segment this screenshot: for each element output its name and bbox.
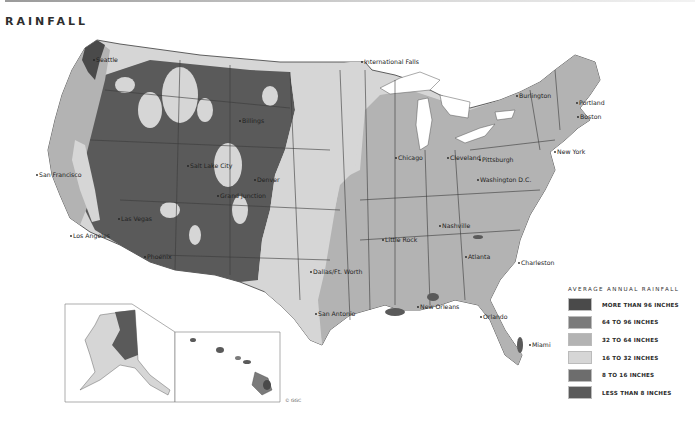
legend-label: 64 TO 96 INCHES [602,319,658,325]
city-marker: Portland [576,99,605,106]
city-label: Phoenix [147,253,172,260]
city-marker: Atlanta [465,253,490,260]
city-dot [465,256,467,258]
city-dot [417,306,419,308]
city-dot [217,195,219,197]
legend: AVERAGE ANNUAL RAINFALL MORE THAN 96 INC… [568,286,700,402]
city-dot [518,262,520,264]
city-marker: Orlando [480,313,508,320]
city-marker: Little Rock [382,236,418,243]
legend-item-less-than-8: LESS THAN 8 INCHES [568,384,700,402]
city-marker: San Antonio [315,310,356,317]
city-label: Burlington [519,92,551,100]
city-dot [310,271,312,273]
city-label: San Francisco [39,171,82,178]
legend-title: AVERAGE ANNUAL RAINFALL [568,286,700,292]
city-marker: Washington D.C. [477,176,531,184]
legend-swatch [568,298,592,311]
city-label: Dallas/Ft. Worth [313,268,363,275]
legend-label: LESS THAN 8 INCHES [602,390,671,396]
legend-item-8-to-16: 8 TO 16 INCHES [568,366,700,384]
city-dot [554,151,556,153]
city-marker: Burlington [516,92,551,100]
city-marker: Miami [529,341,551,348]
legend-label: 16 TO 32 INCHES [602,355,658,361]
city-label: New Orleans [420,303,459,310]
city-dot [395,157,397,159]
city-label: Chicago [398,154,423,162]
legend-swatch [568,316,592,329]
hawaii-inset [175,332,280,402]
city-dot [187,165,189,167]
legend-swatch [568,333,592,346]
city-marker: Salt Lake City [187,162,233,170]
city-dot [529,344,531,346]
city-label: Charleston [521,259,555,266]
legend-item-64-to-96: 64 TO 96 INCHES [568,314,700,332]
city-label: Denver [257,176,280,183]
city-dot [477,179,479,181]
city-marker: Los Angeles [70,232,110,240]
city-dot [93,59,95,61]
city-label: Las Vegas [121,215,152,223]
city-dot [516,95,518,97]
city-dot [239,120,241,122]
city-dot [439,225,441,227]
city-marker: Grand Junction [217,192,266,200]
city-marker: Cleveland [447,154,481,161]
legend-label: 8 TO 16 INCHES [602,372,654,378]
city-label: Nashville [442,222,470,229]
city-marker: Charleston [518,259,554,266]
city-label: Pittsburgh [482,156,514,164]
city-label: Los Angeles [73,232,110,240]
city-marker: New Orleans [417,303,459,310]
city-label: Orlando [483,313,508,320]
city-marker: New York [554,148,586,155]
city-label: San Antonio [318,310,356,317]
city-marker: International Falls [361,58,419,65]
city-dot [361,61,363,63]
city-marker: Denver [254,176,280,183]
city-label: Grand Junction [220,192,266,200]
city-dot [254,179,256,181]
city-label: Cleveland [450,154,481,161]
legend-label: 32 TO 64 INCHES [602,337,658,343]
city-dot [382,239,384,241]
city-label: Washington D.C. [480,176,531,184]
city-marker: Dallas/Ft. Worth [310,268,362,275]
city-marker: Boston [577,113,601,120]
city-dot [577,116,579,118]
alaska-inset [65,304,175,402]
city-label: Billings [242,117,264,125]
legend-swatch [568,386,592,399]
city-label: Little Rock [385,236,418,243]
city-marker: Pittsburgh [479,156,514,164]
city-dot [315,313,317,315]
legend-label: MORE THAN 96 INCHES [602,302,679,308]
city-label: Atlanta [468,253,490,260]
city-dot [576,102,578,104]
city-label: Seattle [96,56,118,63]
legend-item-more-than-96: MORE THAN 96 INCHES [568,296,700,314]
city-marker: Nashville [439,222,470,229]
city-label: Miami [532,341,551,348]
city-marker: San Francisco [36,171,82,178]
city-dot [480,316,482,318]
city-marker: Las Vegas [118,215,152,223]
city-label: Boston [580,113,601,120]
city-dot [118,218,120,220]
legend-swatch [568,369,592,382]
city-marker: Phoenix [144,253,172,260]
copyright: © GGC [285,398,301,403]
city-marker: Billings [239,117,264,125]
legend-item-16-to-32: 16 TO 32 INCHES [568,349,700,367]
city-dot [70,235,72,237]
city-dot [144,256,146,258]
city-dot [479,159,481,161]
city-label: Portland [579,99,605,106]
city-marker: Seattle [93,56,118,63]
city-label: International Falls [364,58,419,65]
legend-item-32-to-64: 32 TO 64 INCHES [568,331,700,349]
city-label: New York [557,148,586,155]
city-label: Salt Lake City [190,162,233,170]
